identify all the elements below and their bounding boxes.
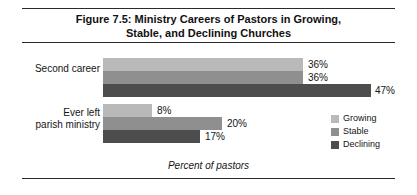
- category-label-second-career: Second career: [35, 63, 100, 75]
- category-label-ever-left-parish-ministry: Ever left parish ministry: [36, 107, 100, 131]
- value-label-second-career-declining: 47%: [375, 84, 395, 97]
- legend-label-stable: Stable: [343, 125, 369, 138]
- bar-ever-left-declining: [103, 130, 200, 143]
- value-label-second-career-stable: 36%: [308, 71, 328, 84]
- figure-title-line-1: Figure 7.5: Ministry Careers of Pastors …: [22, 12, 395, 26]
- bar-second-career-growing: [103, 58, 303, 71]
- legend-label-growing: Growing: [343, 112, 377, 125]
- legend-swatch-declining: [331, 141, 339, 149]
- figure-bottom-rule: [22, 178, 395, 179]
- category-label-line-2: parish ministry: [36, 119, 100, 131]
- figure-container: Figure 7.5: Ministry Careers of Pastors …: [0, 0, 417, 195]
- legend-swatch-growing: [331, 115, 339, 123]
- value-label-ever-left-stable: 20%: [227, 117, 247, 130]
- figure-top-rule: [22, 8, 395, 9]
- bar-ever-left-growing: [103, 104, 152, 117]
- category-label-line-1: Second career: [35, 63, 100, 75]
- legend-label-declining: Declining: [343, 138, 380, 151]
- value-label-second-career-growing: 36%: [308, 58, 328, 71]
- bar-ever-left-stable: [103, 117, 222, 130]
- bar-second-career-declining: [103, 84, 371, 97]
- value-label-ever-left-declining: 17%: [205, 130, 225, 143]
- figure-title-line-2: Stable, and Declining Churches: [22, 26, 395, 40]
- legend-item-declining: Declining: [331, 138, 380, 151]
- chart-legend: Growing Stable Declining: [331, 112, 380, 151]
- category-label-line-1: Ever left: [36, 107, 100, 119]
- bar-second-career-stable: [103, 71, 303, 84]
- x-axis-title: Percent of pastors: [22, 160, 395, 171]
- value-label-ever-left-growing: 8%: [157, 104, 171, 117]
- legend-item-growing: Growing: [331, 112, 380, 125]
- legend-item-stable: Stable: [331, 125, 380, 138]
- figure-title-rule: [22, 42, 395, 43]
- figure-title: Figure 7.5: Ministry Careers of Pastors …: [22, 12, 395, 40]
- legend-swatch-stable: [331, 128, 339, 136]
